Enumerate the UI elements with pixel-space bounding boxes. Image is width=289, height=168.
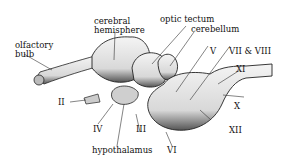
label-nerve-VI: VI (167, 146, 177, 155)
hypothalamus-structure (111, 86, 138, 104)
label-hypothalamus: hypothalamus (92, 146, 152, 155)
label-nerve-X: X (234, 102, 240, 111)
label-nerve-IV: IV (93, 125, 103, 134)
label-nerve-II: II (58, 98, 65, 107)
label-nerve-XII: XII (229, 126, 242, 135)
label-olfactory-bulb-line2: bulb (15, 50, 34, 59)
label-cerebral-hemisphere-line2: hemisphere (94, 26, 145, 35)
label-cerebellum: cerebellum (191, 25, 239, 34)
label-nerve-III: III (136, 125, 146, 134)
label-nerve-V: V (210, 47, 216, 56)
brain-diagram: olfactory bulb cerebral hemisphere optic… (0, 0, 289, 168)
label-nerve-VII-VIII: VII & VIII (229, 47, 271, 56)
olfactory-tract (36, 56, 100, 84)
olfactory-bulb (34, 75, 44, 85)
label-optic-tectum: optic tectum (160, 15, 214, 24)
label-nerve-XI: XI (236, 65, 245, 74)
optic-nerve (84, 94, 100, 104)
